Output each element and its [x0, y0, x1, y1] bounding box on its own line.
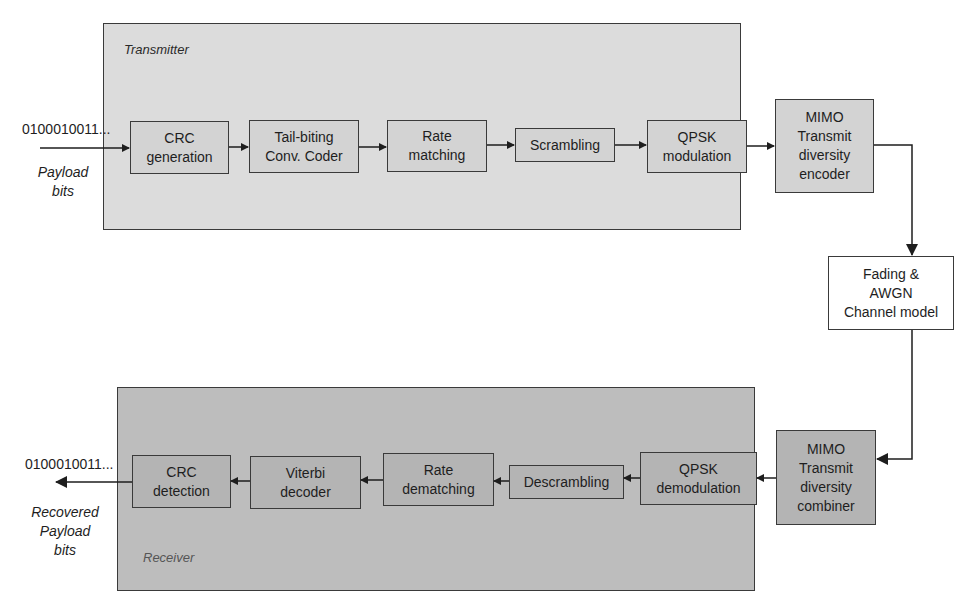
signal-flow-arrows: [0, 0, 974, 611]
